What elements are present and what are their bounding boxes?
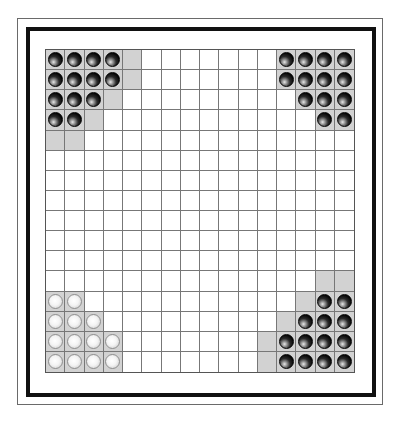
board-cell[interactable] <box>335 332 354 352</box>
board-cell[interactable] <box>162 292 181 312</box>
board-cell[interactable] <box>123 352 142 372</box>
board-cell[interactable] <box>162 271 181 291</box>
board-cell[interactable] <box>258 312 277 332</box>
board-cell[interactable] <box>258 171 277 191</box>
board-cell[interactable] <box>46 251 65 271</box>
black-piece-icon[interactable] <box>298 92 313 107</box>
board-cell[interactable] <box>181 231 200 251</box>
black-piece-icon[interactable] <box>67 72 82 87</box>
black-piece-icon[interactable] <box>337 52 352 67</box>
board-cell[interactable] <box>162 312 181 332</box>
black-piece-icon[interactable] <box>317 112 332 127</box>
board-cell[interactable] <box>142 292 161 312</box>
board-cell[interactable] <box>316 191 335 211</box>
black-piece-icon[interactable] <box>317 314 332 329</box>
board-cell[interactable] <box>277 332 296 352</box>
board-cell[interactable] <box>239 292 258 312</box>
board-cell[interactable] <box>85 352 104 372</box>
board-cell[interactable] <box>239 90 258 110</box>
board-cell[interactable] <box>200 131 219 151</box>
board-cell[interactable] <box>277 70 296 90</box>
black-piece-icon[interactable] <box>105 72 120 87</box>
board-cell[interactable] <box>296 131 315 151</box>
board-cell[interactable] <box>239 131 258 151</box>
board-cell[interactable] <box>181 90 200 110</box>
white-piece-icon[interactable] <box>86 354 101 369</box>
board-cell[interactable] <box>200 191 219 211</box>
board-cell[interactable] <box>258 352 277 372</box>
board-cell[interactable] <box>104 271 123 291</box>
board-cell[interactable] <box>142 231 161 251</box>
board-cell[interactable] <box>239 312 258 332</box>
board-cell[interactable] <box>104 70 123 90</box>
board-cell[interactable] <box>200 211 219 231</box>
board-cell[interactable] <box>258 70 277 90</box>
board-cell[interactable] <box>219 312 238 332</box>
board-cell[interactable] <box>335 231 354 251</box>
black-piece-icon[interactable] <box>279 354 294 369</box>
black-piece-icon[interactable] <box>48 52 63 67</box>
board-cell[interactable] <box>181 171 200 191</box>
board-cell[interactable] <box>46 211 65 231</box>
board-cell[interactable] <box>65 312 84 332</box>
board-cell[interactable] <box>65 211 84 231</box>
board-cell[interactable] <box>200 70 219 90</box>
black-piece-icon[interactable] <box>105 52 120 67</box>
board-cell[interactable] <box>316 231 335 251</box>
board-cell[interactable] <box>162 211 181 231</box>
board-cell[interactable] <box>46 271 65 291</box>
board-cell[interactable] <box>316 271 335 291</box>
board-cell[interactable] <box>219 332 238 352</box>
board-cell[interactable] <box>65 251 84 271</box>
board-cell[interactable] <box>296 332 315 352</box>
board-cell[interactable] <box>123 131 142 151</box>
board-cell[interactable] <box>258 211 277 231</box>
board-cell[interactable] <box>335 191 354 211</box>
board-cell[interactable] <box>104 131 123 151</box>
black-piece-icon[interactable] <box>317 72 332 87</box>
black-piece-icon[interactable] <box>317 294 332 309</box>
board-cell[interactable] <box>123 110 142 130</box>
black-piece-icon[interactable] <box>298 334 313 349</box>
board-cell[interactable] <box>296 191 315 211</box>
white-piece-icon[interactable] <box>67 334 82 349</box>
board-cell[interactable] <box>239 70 258 90</box>
board-cell[interactable] <box>335 171 354 191</box>
board-cell[interactable] <box>142 110 161 130</box>
board-cell[interactable] <box>296 251 315 271</box>
board-cell[interactable] <box>258 231 277 251</box>
board-cell[interactable] <box>316 70 335 90</box>
board-cell[interactable] <box>85 191 104 211</box>
board-cell[interactable] <box>162 251 181 271</box>
board-cell[interactable] <box>123 332 142 352</box>
white-piece-icon[interactable] <box>48 294 63 309</box>
board-cell[interactable] <box>104 151 123 171</box>
board-cell[interactable] <box>46 70 65 90</box>
board-cell[interactable] <box>219 131 238 151</box>
board-cell[interactable] <box>65 352 84 372</box>
board-cell[interactable] <box>181 50 200 70</box>
black-piece-icon[interactable] <box>48 72 63 87</box>
black-piece-icon[interactable] <box>317 354 332 369</box>
board-cell[interactable] <box>104 312 123 332</box>
board-cell[interactable] <box>277 171 296 191</box>
board-cell[interactable] <box>142 352 161 372</box>
black-piece-icon[interactable] <box>337 294 352 309</box>
board-cell[interactable] <box>181 312 200 332</box>
board-cell[interactable] <box>219 90 238 110</box>
board-cell[interactable] <box>277 352 296 372</box>
board-cell[interactable] <box>200 151 219 171</box>
board-cell[interactable] <box>85 90 104 110</box>
black-piece-icon[interactable] <box>86 72 101 87</box>
board-cell[interactable] <box>104 231 123 251</box>
board-cell[interactable] <box>258 110 277 130</box>
board-cell[interactable] <box>142 332 161 352</box>
board-cell[interactable] <box>142 251 161 271</box>
board-cell[interactable] <box>46 312 65 332</box>
board-cell[interactable] <box>46 231 65 251</box>
board-cell[interactable] <box>277 211 296 231</box>
board-cell[interactable] <box>162 171 181 191</box>
board-cell[interactable] <box>239 251 258 271</box>
board-cell[interactable] <box>316 151 335 171</box>
board-cell[interactable] <box>200 332 219 352</box>
